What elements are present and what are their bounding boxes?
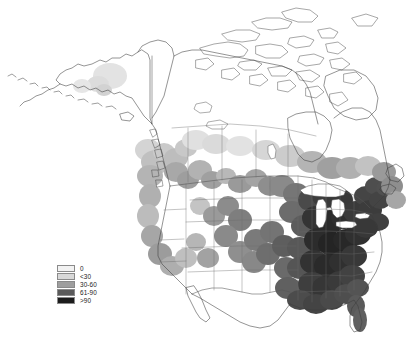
legend-label-2: 30-60 [80,281,97,288]
legend-label-3: 61-90 [80,289,97,296]
legend-label-0: 0 [80,265,84,272]
lake-ontario [355,213,370,219]
legend-swatch-2 [57,281,75,288]
legend-item: 61-90 [57,289,152,297]
legend-swatch-1 [57,273,75,280]
legend-item: 0 [57,264,152,272]
density-legend: 0 <30 30-60 61-90 >90 [57,264,152,305]
legend-swatch-4 [57,297,75,304]
legend-item: >90 [57,297,152,305]
legend-swatch-0 [57,265,75,272]
map-figure: 0 <30 30-60 61-90 >90 [0,0,414,354]
legend-swatch-3 [57,289,75,296]
legend-label-4: >90 [80,297,91,304]
legend-item: <30 [57,272,152,280]
legend-label-1: <30 [80,273,91,280]
legend-item: 30-60 [57,280,152,288]
